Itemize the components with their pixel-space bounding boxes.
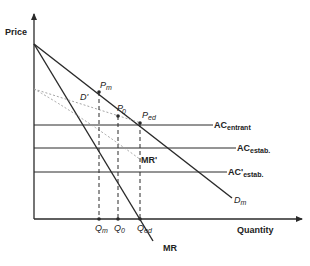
ac-estab-prime-label: AC'estab. xyxy=(228,167,263,178)
qed-label: Qed xyxy=(137,223,153,234)
demand-curve xyxy=(34,44,232,198)
pm-label: Pm xyxy=(100,80,112,91)
qed-point xyxy=(138,217,142,221)
residual-demand-label: D' xyxy=(80,92,88,102)
pm-point xyxy=(97,90,101,94)
x-axis-label: Quantity xyxy=(237,225,274,235)
ac-estab-label: ACestab. xyxy=(237,143,270,154)
p0-label: P0 xyxy=(117,103,126,115)
entry-deterrence-diagram: Price Quantity ACentrant ACestab. AC'est… xyxy=(0,0,310,266)
mr-label: MR xyxy=(163,243,177,253)
demand-label: Dm xyxy=(234,195,247,206)
ped-label: Ped xyxy=(142,110,157,121)
qm-point xyxy=(97,217,101,221)
qm-label: Qm xyxy=(95,223,108,234)
ped-point xyxy=(138,121,142,125)
q0-point xyxy=(116,217,120,221)
q0-label: Q0 xyxy=(114,223,125,234)
mr-curve xyxy=(34,44,153,241)
ac-entrant-label: ACentrant xyxy=(214,120,251,131)
y-axis-label: Price xyxy=(5,27,27,37)
p0-point xyxy=(116,114,120,118)
residual-mr-label: MR' xyxy=(141,155,157,165)
